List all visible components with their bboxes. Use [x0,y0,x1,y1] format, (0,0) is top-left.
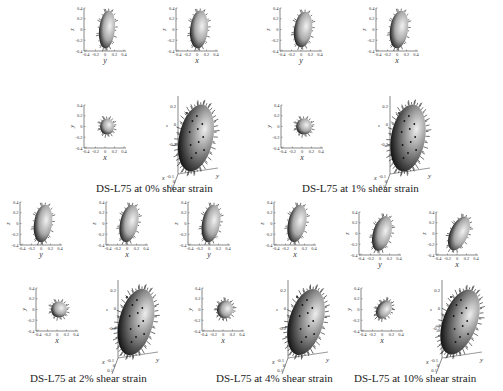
svg-text:0.4: 0.4 [225,246,231,251]
svg-text:-0.2: -0.2 [367,256,374,261]
subplot-zy-0: 0.4-0.40.2-0.200-0.20.2-0.40.4yz [68,4,130,70]
svg-text:0.2: 0.2 [48,246,54,251]
svg-text:0: 0 [277,124,280,129]
svg-text:y: y [325,356,330,364]
svg-text:x: x [194,56,199,65]
svg-text:0.2: 0.2 [112,149,118,154]
svg-text:x: x [271,359,275,365]
svg-text:-0.2: -0.2 [169,142,177,147]
svg-text:-0.2: -0.2 [92,52,99,57]
svg-text:-0.2: -0.2 [114,246,121,251]
svg-text:0.2: 0.2 [354,296,360,301]
svg-text:0: 0 [184,221,187,226]
svg-text:y: y [266,125,272,129]
subplot-3d-4: 0.20-0.2z-0.100.1xy [420,278,492,378]
svg-text:-0.4: -0.4 [435,256,443,261]
svg-text:0.2: 0.2 [464,256,470,261]
svg-text:0.4: 0.4 [267,200,273,205]
subplot-yx-2: 0.4-0.40.2-0.200-0.20.2-0.40.4xy [20,284,82,350]
svg-text:0: 0 [174,122,177,127]
svg-text:0.4: 0.4 [57,246,63,251]
svg-text:y: y [479,356,484,364]
svg-text:0: 0 [357,307,360,312]
svg-text:y: y [38,250,43,259]
subplot-yx-3: 0.4-0.40.2-0.200-0.20.2-0.40.4xy [186,284,248,350]
svg-text:z: z [429,307,432,312]
svg-text:0.2: 0.2 [195,296,201,301]
svg-text:-0.2: -0.2 [369,332,376,337]
svg-text:y: y [206,250,211,259]
svg-text:0.4: 0.4 [239,332,245,337]
svg-text:0.4: 0.4 [396,256,402,261]
svg-text:-0.4: -0.4 [35,332,43,337]
svg-text:0.2: 0.2 [273,16,279,21]
svg-text:0: 0 [432,231,435,236]
svg-text:0.2: 0.2 [77,16,83,21]
subplot-3d-0: 0.20-0.2z-0.100.1xy [156,94,228,194]
svg-text:0.4: 0.4 [273,6,279,11]
svg-text:-0.4: -0.4 [28,329,36,334]
svg-text:x: x [124,250,129,259]
svg-text:x: x [299,153,304,162]
svg-text:0.2: 0.2 [134,246,140,251]
svg-text:0.2: 0.2 [387,256,393,261]
svg-text:-0.2: -0.2 [351,242,358,247]
svg-text:-0.2: -0.2 [433,326,441,331]
svg-text:-0.4: -0.4 [273,246,281,251]
svg-text:-0.4: -0.4 [76,146,84,151]
svg-text:y: y [427,172,432,180]
svg-text:x: x [454,260,459,269]
svg-text:0.2: 0.2 [170,104,176,109]
svg-text:0.4: 0.4 [429,210,435,215]
svg-text:z: z [173,222,179,226]
svg-text:0.4: 0.4 [318,149,324,154]
svg-text:0.4: 0.4 [473,256,479,261]
svg-text:0: 0 [198,307,201,312]
svg-text:-0.4: -0.4 [98,243,106,248]
subplot-yx-1: 0.4-0.40.2-0.200-0.20.2-0.40.4xy [265,101,327,167]
svg-text:0.2: 0.2 [29,296,35,301]
svg-text:x: x [161,175,165,181]
svg-text:0: 0 [172,27,175,32]
subplot-3d-3: 0.20-0.2z-0.100.1xy [266,278,338,378]
svg-text:y: y [215,172,220,180]
subplot-yx-0: 0.4-0.40.2-0.200-0.20.2-0.40.4xy [68,101,130,167]
svg-text:-0.2: -0.2 [184,52,191,57]
svg-text:-0.2: -0.2 [76,38,83,43]
svg-text:-0.4: -0.4 [201,332,209,337]
svg-text:x: x [292,250,297,259]
svg-text:z: z [275,307,278,312]
svg-text:-0.4: -0.4 [353,329,361,334]
svg-text:-0.2: -0.2 [289,149,296,154]
svg-text:z: z [259,222,265,226]
svg-text:0.2: 0.2 [302,246,308,251]
svg-text:-0.2: -0.2 [98,232,105,237]
svg-text:-0.2: -0.2 [76,135,83,140]
svg-text:0.4: 0.4 [13,200,19,205]
svg-text:0.2: 0.2 [99,210,105,215]
svg-text:-0.2: -0.2 [272,38,279,43]
svg-text:-0.4: -0.4 [360,332,368,337]
svg-text:-0.2: -0.2 [282,246,289,251]
svg-text:-0.4: -0.4 [83,149,91,154]
svg-text:0.4: 0.4 [121,149,127,154]
svg-text:0: 0 [372,27,375,32]
svg-text:-0.4: -0.4 [358,256,366,261]
svg-text:0.4: 0.4 [413,52,419,57]
svg-text:0.2: 0.2 [280,288,286,293]
svg-text:0.2: 0.2 [181,210,187,215]
group-caption: DS-L75 at 0% shear strain [96,182,213,194]
svg-text:z: z [69,28,75,32]
svg-text:0.4: 0.4 [121,52,127,57]
svg-text:y: y [298,56,303,65]
svg-text:-0.2: -0.2 [266,232,273,237]
svg-text:x: x [394,56,399,65]
svg-text:0.4: 0.4 [169,6,175,11]
svg-text:y: y [187,308,193,312]
svg-text:0: 0 [102,221,105,226]
svg-text:0.2: 0.2 [204,52,210,57]
svg-text:0: 0 [32,307,35,312]
svg-text:z: z [265,28,271,32]
svg-text:y: y [69,125,75,129]
svg-text:0.4: 0.4 [77,103,83,108]
